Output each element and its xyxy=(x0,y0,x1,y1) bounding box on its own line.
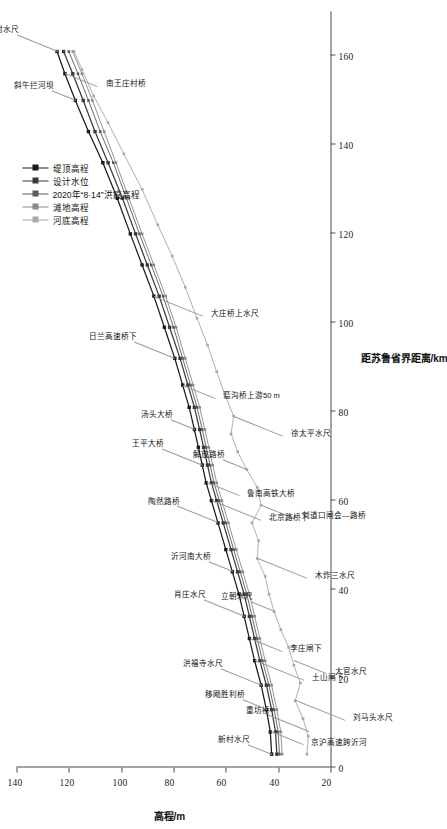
legend-item[interactable]: 设计水位 xyxy=(22,174,139,186)
series-marker xyxy=(162,325,165,328)
series-marker xyxy=(192,405,195,408)
data-point-label: 斜午拦河坝 xyxy=(13,78,53,89)
data-point-label: 南王庄村桥 xyxy=(105,77,145,88)
legend-label: 设计水位 xyxy=(52,174,88,186)
legend-swatch-icon xyxy=(22,201,48,211)
legend-label: 堤顶高程 xyxy=(52,161,88,173)
series-line xyxy=(63,51,276,754)
legend-label: 2020年“8·14”洪痕高程 xyxy=(52,187,139,199)
series-marker xyxy=(145,263,148,266)
series-marker xyxy=(221,521,224,524)
data-point-label: 王平大桥 xyxy=(132,436,164,447)
data-point-label: 木炸三水尺 xyxy=(314,568,354,579)
legend-item[interactable]: 堤顶高程 xyxy=(22,161,139,173)
data-point-label: 沂河南大桥 xyxy=(170,549,210,560)
chart-legend: 堤顶高程设计水位2020年“8·14”洪痕高程滩地高程河底高程 xyxy=(22,161,139,226)
series-marker xyxy=(67,50,70,53)
data-point-label: 京沪高速跨沂河 xyxy=(311,735,367,746)
legend-swatch-icon xyxy=(22,175,48,185)
data-point-label: 大庄桥上水尺 xyxy=(211,306,259,317)
legend-swatch-icon xyxy=(22,214,48,224)
series-marker xyxy=(247,614,250,617)
series-marker xyxy=(128,232,131,235)
y-axis-title: 高程/m xyxy=(153,807,185,822)
data-point-label: 移飏胜利桥 xyxy=(205,687,245,698)
data-point-label: 刘马头水尺 xyxy=(352,710,392,721)
series-marker xyxy=(93,129,96,132)
series-marker xyxy=(229,547,232,550)
data-point-label: 日兰高速桥下 xyxy=(88,329,136,340)
series-marker xyxy=(61,49,64,52)
legend-item[interactable]: 滩地高程 xyxy=(22,200,139,212)
series-marker xyxy=(167,325,170,328)
legend-swatch-icon xyxy=(22,162,48,172)
data-point-label: 徐太平水尺 xyxy=(291,426,331,437)
legend-swatch-icon xyxy=(22,188,48,198)
data-point-label: 新村水尺 xyxy=(218,732,250,743)
series-marker xyxy=(235,570,238,573)
series-marker xyxy=(224,547,227,550)
data-point-label: 立朝水尺 xyxy=(220,590,252,601)
series-marker xyxy=(86,129,89,132)
series-marker xyxy=(264,683,267,686)
series-line xyxy=(72,51,281,754)
series-line xyxy=(57,51,272,754)
series-marker xyxy=(133,232,136,235)
data-point-label: 葛沟桥上游50 m xyxy=(223,388,280,399)
series-marker xyxy=(275,752,278,755)
legend-item[interactable]: 2020年“8·14”洪痕高程 xyxy=(22,187,139,199)
data-point-label: 前臣山村水尺 xyxy=(0,22,18,33)
data-point-label: 解放路桥 xyxy=(193,447,225,458)
series-marker xyxy=(197,427,200,430)
data-point-label: 北京路桥下 xyxy=(268,510,308,521)
series-marker xyxy=(205,463,208,466)
data-point-label: 汤头大桥 xyxy=(141,407,173,418)
legend-item[interactable]: 河底高程 xyxy=(22,213,139,225)
series-marker xyxy=(81,98,84,101)
legend-label: 滩地高程 xyxy=(52,200,88,212)
data-point-label: 刘道口闸会—路桥 xyxy=(301,508,365,519)
series-marker xyxy=(178,356,181,359)
data-point-label: 陶然路桥 xyxy=(147,494,179,505)
data-point-label: 洪福寺水尺 xyxy=(183,656,223,667)
legend-label: 河底高程 xyxy=(52,213,88,225)
data-point-label: 肖庄水尺 xyxy=(174,587,206,598)
series-marker xyxy=(187,405,190,408)
data-point-label: 土山闸下 xyxy=(312,670,344,681)
series-marker xyxy=(140,263,143,266)
data-point-label: 鲁南高铁大桥 xyxy=(246,486,294,497)
x-axis-title: 距苏鲁省界距离/km xyxy=(360,349,447,364)
data-point-label: 李庄闸下 xyxy=(290,641,322,652)
